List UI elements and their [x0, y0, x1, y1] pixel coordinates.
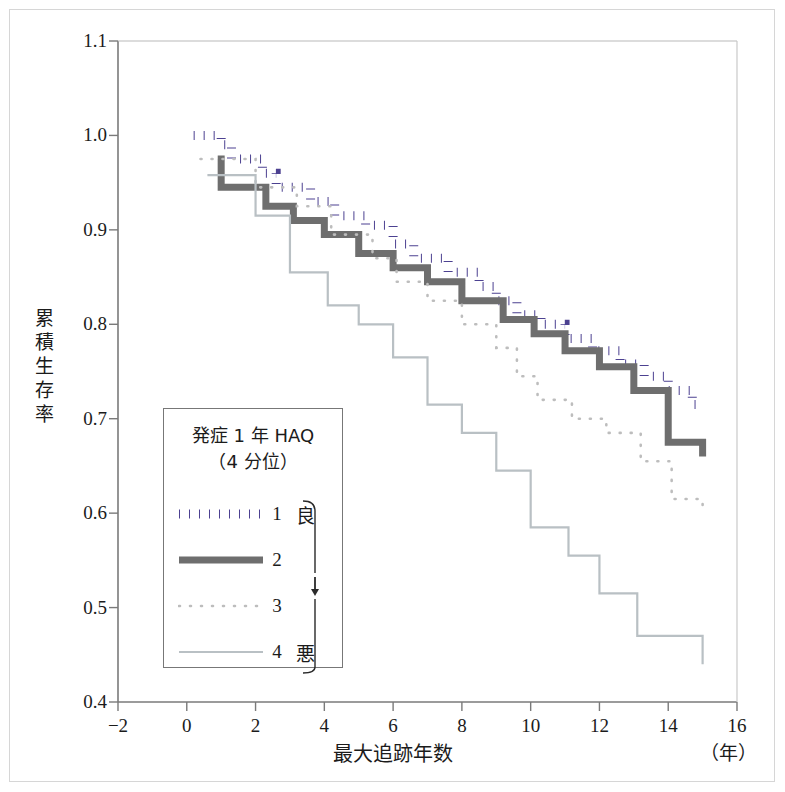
legend-title: 発症 1 年 HAQ （4 分位）	[164, 423, 342, 475]
y-axis-title: 累積生存率	[32, 306, 56, 426]
x-axis-tick-label: 14	[659, 715, 678, 737]
legend-number-2: 2	[264, 549, 290, 571]
x-axis-tick-label: 0	[182, 715, 192, 737]
x-axis-unit-label: （年）	[700, 738, 757, 765]
x-axis-tick-label: 12	[590, 715, 609, 737]
legend-title-line2: （4 分位）	[164, 449, 342, 475]
y-axis-title-char: 累	[32, 306, 56, 330]
legend-number-4: 4	[264, 641, 290, 663]
legend-swatch-2-icon	[178, 553, 264, 567]
figure-container: 0.40.50.60.70.80.91.01.1 −20246810121416…	[0, 0, 785, 792]
legend-swatch-3-icon	[178, 599, 264, 613]
x-axis-tick-label: 2	[251, 715, 261, 737]
y-axis-tick-label: 0.5	[55, 597, 107, 619]
x-axis-tick-label: 4	[320, 715, 330, 737]
legend-box: 発症 1 年 HAQ （4 分位） 1良234悪	[163, 408, 343, 668]
y-axis-title-char: 存	[32, 378, 56, 402]
legend-number-1: 1	[264, 503, 290, 525]
y-axis-title-char: 率	[32, 402, 56, 426]
legend-swatch-4-icon	[178, 645, 264, 659]
legend-title-line1: 発症 1 年 HAQ	[192, 425, 314, 446]
y-axis-tick-label: 0.4	[55, 691, 107, 713]
x-axis-tick-label: 8	[457, 715, 467, 737]
y-axis-tick-label: 0.9	[55, 219, 107, 241]
y-axis-tick-label: 1.0	[55, 124, 107, 146]
legend-swatch-1-icon	[178, 507, 264, 521]
x-axis-tick-label: −2	[108, 715, 128, 737]
legend-item-3[interactable]: 3	[164, 583, 342, 629]
y-axis-ticks	[109, 41, 118, 702]
legend-item-1[interactable]: 1良	[164, 491, 342, 537]
x-axis-tick-label: 6	[388, 715, 398, 737]
legend-endlabel-1: 良	[296, 501, 315, 528]
y-axis-title-char: 生	[32, 354, 56, 378]
legend-endlabel-4: 悪	[296, 639, 315, 666]
legend-item-2[interactable]: 2	[164, 537, 342, 583]
legend-number-3: 3	[264, 595, 290, 617]
legend-item-4[interactable]: 4悪	[164, 629, 342, 675]
y-axis-tick-label: 1.1	[55, 30, 107, 52]
legend-rows: 1良234悪	[164, 491, 342, 675]
y-axis-tick-label: 0.7	[55, 408, 107, 430]
x-axis-title: 最大追跡年数	[0, 738, 785, 767]
y-axis-tick-label: 0.8	[55, 313, 107, 335]
x-axis-tick-label: 10	[521, 715, 540, 737]
x-axis-ticks	[118, 702, 737, 711]
survival-curve-plot	[0, 0, 785, 792]
y-axis-title-char: 積	[32, 330, 56, 354]
y-axis-tick-label: 0.6	[55, 502, 107, 524]
x-axis-tick-label: 16	[728, 715, 747, 737]
